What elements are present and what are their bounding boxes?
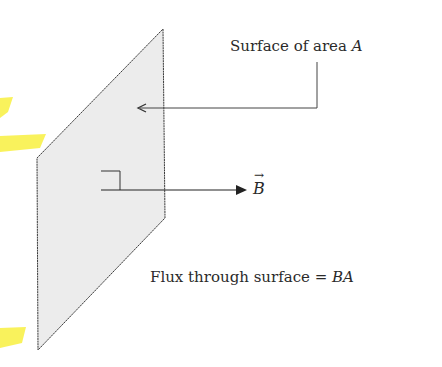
surface-label: Surface of area A (230, 37, 363, 55)
surface-label-leader (140, 62, 317, 108)
b-field-label: → B (253, 179, 265, 198)
flux-equation-text: Flux through surface = (150, 268, 332, 286)
highlight-mark-middle (0, 134, 46, 152)
flux-equation: Flux through surface = BA (150, 268, 354, 286)
surface-label-text: Surface of area (230, 37, 352, 55)
b-field-arrowhead-icon (236, 185, 247, 195)
surface-area-symbol: A (352, 37, 363, 55)
flux-diagram (0, 0, 442, 367)
highlight-mark-bottom (0, 327, 26, 348)
vector-arrow-icon: → (254, 168, 264, 182)
highlight-mark-top (0, 97, 13, 118)
flux-expression: BA (332, 268, 354, 286)
